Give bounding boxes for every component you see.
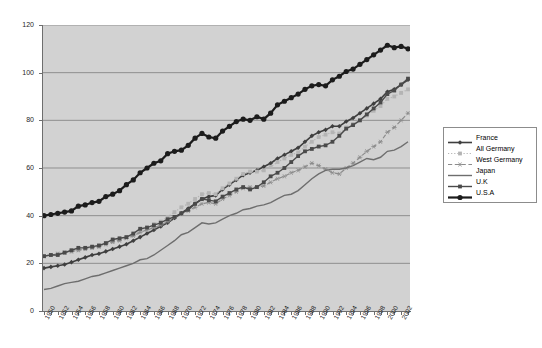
data-point-marker bbox=[48, 212, 53, 217]
data-point-marker bbox=[372, 107, 376, 111]
legend-item[interactable]: All Germany bbox=[447, 143, 533, 154]
data-point-marker bbox=[63, 251, 67, 255]
legend-swatch bbox=[447, 193, 473, 202]
legend-item[interactable]: U.K bbox=[447, 176, 533, 187]
legend-label: West Germany bbox=[476, 156, 523, 164]
data-point-marker bbox=[192, 136, 197, 141]
data-point-marker bbox=[303, 145, 307, 149]
data-point-marker bbox=[255, 185, 259, 189]
data-point-marker bbox=[49, 265, 54, 270]
data-point-marker bbox=[379, 104, 383, 108]
data-point-marker bbox=[392, 45, 397, 50]
legend-key-icon bbox=[447, 133, 473, 142]
data-point-marker bbox=[350, 66, 355, 71]
data-point-marker bbox=[89, 200, 94, 205]
data-point-marker bbox=[90, 253, 95, 258]
data-point-marker bbox=[159, 221, 163, 225]
series-line bbox=[44, 89, 408, 256]
y-axis-line bbox=[42, 25, 43, 312]
y-tick-label: 20 bbox=[4, 259, 34, 266]
data-point-marker bbox=[296, 92, 301, 97]
data-point-marker bbox=[62, 209, 67, 214]
data-point-marker bbox=[103, 194, 108, 199]
data-point-marker bbox=[117, 188, 122, 193]
data-point-marker bbox=[55, 263, 60, 268]
data-point-marker bbox=[186, 208, 190, 212]
data-point-marker bbox=[317, 145, 321, 149]
plot-svg bbox=[42, 25, 410, 311]
data-point-marker bbox=[234, 188, 238, 192]
data-point-marker bbox=[282, 166, 286, 170]
data-point-marker bbox=[193, 202, 197, 206]
legend-item[interactable]: West Germany bbox=[447, 154, 533, 165]
data-point-marker bbox=[69, 208, 74, 213]
data-point-marker bbox=[96, 199, 101, 204]
data-point-marker bbox=[70, 248, 74, 252]
data-point-marker bbox=[406, 87, 410, 91]
data-point-marker bbox=[269, 174, 273, 178]
data-point-marker bbox=[276, 171, 280, 175]
data-point-marker bbox=[399, 44, 404, 49]
data-point-marker bbox=[76, 204, 81, 209]
data-point-marker bbox=[289, 153, 293, 157]
data-point-marker bbox=[330, 77, 335, 82]
data-point-marker bbox=[166, 217, 170, 221]
data-point-marker bbox=[234, 119, 239, 124]
data-point-marker bbox=[399, 83, 403, 87]
data-point-marker bbox=[324, 133, 328, 137]
data-point-marker bbox=[282, 99, 287, 104]
series-line bbox=[44, 80, 408, 268]
legend-key-icon bbox=[447, 177, 473, 186]
data-point-marker bbox=[241, 172, 245, 176]
x-axis: 1950195219541956195819601962196419661968… bbox=[42, 312, 411, 348]
data-point-marker bbox=[392, 95, 396, 99]
data-point-marker bbox=[379, 101, 383, 105]
data-point-marker bbox=[220, 128, 225, 133]
data-point-marker bbox=[213, 136, 218, 141]
data-point-marker bbox=[186, 143, 191, 148]
y-tick-label: 80 bbox=[4, 116, 34, 123]
data-point-marker bbox=[399, 91, 403, 95]
data-point-marker bbox=[165, 151, 170, 156]
data-point-marker bbox=[221, 195, 225, 199]
data-point-marker bbox=[357, 62, 362, 67]
legend-key-icon bbox=[447, 166, 473, 175]
data-point-marker bbox=[337, 172, 342, 176]
data-point-marker bbox=[309, 161, 314, 165]
legend-item[interactable]: U.S.A bbox=[447, 187, 533, 198]
series-france bbox=[42, 78, 410, 271]
legend-key-icon bbox=[447, 155, 473, 164]
data-point-marker bbox=[110, 192, 115, 197]
data-point-marker bbox=[275, 102, 280, 107]
data-point-marker bbox=[262, 180, 266, 184]
y-tick-label: 40 bbox=[4, 212, 34, 219]
legend-label: Japan bbox=[476, 167, 495, 175]
data-point-marker bbox=[365, 112, 369, 116]
data-point-marker bbox=[324, 143, 328, 147]
legend-item[interactable]: France bbox=[447, 132, 533, 143]
data-point-marker bbox=[83, 246, 87, 250]
data-point-marker bbox=[104, 241, 108, 245]
data-point-marker bbox=[125, 235, 129, 239]
data-point-marker bbox=[385, 92, 389, 96]
series-west-germany bbox=[42, 111, 410, 258]
data-point-marker bbox=[276, 160, 280, 164]
data-point-marker bbox=[331, 130, 335, 134]
data-point-marker bbox=[241, 117, 246, 122]
data-point-marker bbox=[179, 205, 183, 209]
data-point-marker bbox=[207, 191, 211, 195]
data-point-marker bbox=[76, 257, 81, 262]
legend-item[interactable]: Japan bbox=[447, 165, 533, 176]
data-point-marker bbox=[262, 168, 266, 172]
data-point-marker bbox=[392, 89, 396, 93]
y-axis: 020406080100120 bbox=[0, 0, 42, 348]
data-point-marker bbox=[261, 184, 266, 188]
data-point-marker bbox=[111, 238, 115, 242]
data-point-marker bbox=[173, 215, 177, 219]
data-point-marker bbox=[131, 177, 136, 182]
data-point-marker bbox=[269, 165, 273, 169]
legend-key-icon bbox=[447, 188, 473, 197]
data-point-marker bbox=[55, 211, 60, 216]
data-point-marker bbox=[364, 57, 369, 62]
data-point-marker bbox=[151, 161, 156, 166]
